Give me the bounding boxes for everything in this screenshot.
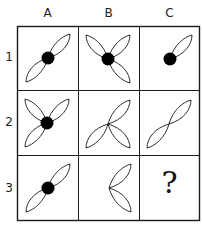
petal-ne-icon bbox=[169, 100, 191, 124]
dot-icon bbox=[42, 182, 55, 195]
petal-ne-icon bbox=[109, 164, 131, 188]
cell-2a bbox=[25, 99, 69, 147]
dot-icon bbox=[164, 53, 177, 66]
missing-cell-question-mark: ? bbox=[139, 165, 200, 200]
dot-icon bbox=[41, 117, 54, 130]
cell-3a bbox=[26, 164, 70, 212]
petal-sw-icon bbox=[147, 124, 169, 148]
petal-se-icon bbox=[108, 124, 130, 148]
cell-3b bbox=[109, 164, 131, 212]
cell-1a bbox=[26, 34, 70, 82]
cell-2b bbox=[86, 100, 130, 148]
dot-icon bbox=[42, 52, 55, 65]
cell-2c bbox=[147, 100, 191, 148]
petal-se-icon bbox=[109, 188, 131, 212]
cell-1b bbox=[86, 35, 130, 83]
petal-sw-icon bbox=[86, 124, 108, 148]
petal-ne-icon bbox=[108, 100, 130, 124]
cell-1c bbox=[164, 35, 193, 66]
dot-icon bbox=[102, 53, 115, 66]
